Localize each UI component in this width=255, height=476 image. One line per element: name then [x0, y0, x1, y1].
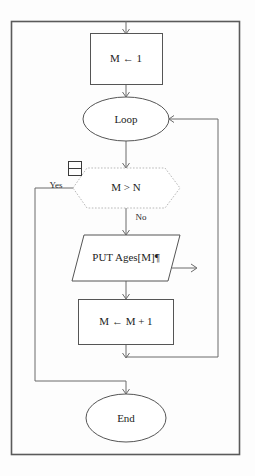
edge-label-yes: Yes — [49, 180, 63, 190]
node-end-label: End — [117, 412, 135, 424]
flowchart-diagram: M ← 1 Loop M > N Yes No PUT Ages[M]¶ M ← — [0, 0, 255, 476]
connector-decision-no-to-output — [123, 208, 130, 235]
node-increment[interactable]: M ← M + 1 — [79, 300, 174, 345]
node-decision[interactable]: M > N — [73, 168, 180, 208]
connector-output-to-increment — [123, 281, 130, 299]
node-init-label: M ← 1 — [110, 52, 142, 64]
connector-decision-yes-to-end — [35, 188, 130, 394]
node-increment-label: M ← M + 1 — [99, 315, 152, 327]
node-init[interactable]: M ← 1 — [91, 34, 163, 85]
selection-handle-icon — [69, 162, 82, 176]
node-loop-label: Loop — [114, 113, 138, 125]
node-output[interactable]: PUT Ages[M]¶ — [72, 235, 180, 281]
node-end[interactable]: End — [86, 394, 166, 442]
edge-label-no: No — [136, 212, 147, 222]
connector-loop-to-decision — [123, 141, 130, 168]
connector-entry — [123, 21, 130, 34]
connector-output-side-arrow — [172, 264, 197, 272]
node-decision-label: M > N — [111, 181, 140, 193]
node-loop[interactable]: Loop — [83, 97, 169, 141]
node-output-label: PUT Ages[M]¶ — [92, 251, 159, 263]
flowchart-canvas: M ← 1 Loop M > N Yes No PUT Ages[M]¶ M ← — [0, 0, 255, 476]
connector-init-to-loop — [123, 85, 130, 97]
